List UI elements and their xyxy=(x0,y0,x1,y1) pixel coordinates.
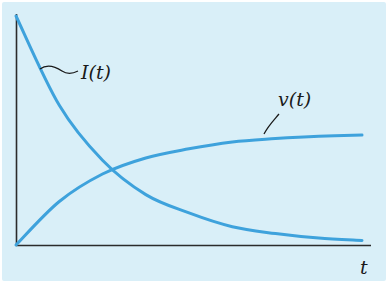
i-curve-label: I(t) xyxy=(80,61,111,83)
series-v-curve xyxy=(16,135,362,245)
v-label-leader xyxy=(264,114,279,134)
v-curve-label: v(t) xyxy=(278,88,311,110)
plot-area: I(t) v(t) t xyxy=(0,0,388,283)
chart: I(t) v(t) t xyxy=(0,0,388,283)
series-i-curve xyxy=(16,16,362,240)
i-label-leader xyxy=(40,66,78,73)
x-axis-label: t xyxy=(360,256,368,278)
